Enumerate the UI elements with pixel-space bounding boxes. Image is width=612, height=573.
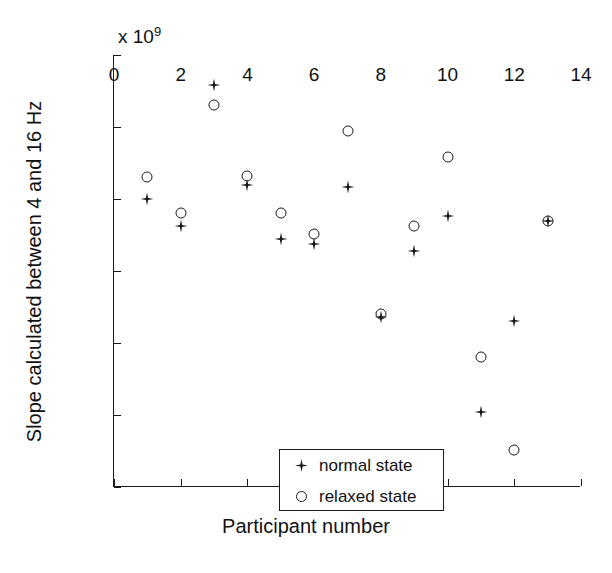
data-point-star bbox=[174, 220, 187, 233]
star-marker-icon bbox=[294, 459, 308, 473]
legend-label-relaxed-state: relaxed state bbox=[319, 488, 416, 505]
data-point-circle bbox=[275, 208, 286, 219]
y-axis-exponent-mantissa: x 10 bbox=[118, 26, 154, 47]
data-point-star bbox=[208, 79, 221, 92]
data-point-circle bbox=[442, 152, 453, 163]
legend-label-normal-state: normal state bbox=[319, 457, 413, 474]
data-point-circle bbox=[209, 100, 220, 111]
x-tick-label: 14 bbox=[551, 65, 611, 84]
data-point-star bbox=[474, 406, 487, 419]
x-tick-label: 2 bbox=[151, 65, 211, 84]
x-tick bbox=[247, 479, 248, 486]
data-point-star bbox=[308, 237, 321, 250]
x-tick-label: 12 bbox=[484, 65, 544, 84]
data-point-circle bbox=[309, 228, 320, 239]
data-point-circle bbox=[542, 215, 553, 226]
data-point-star bbox=[441, 210, 454, 223]
x-tick bbox=[448, 479, 449, 486]
data-point-circle bbox=[509, 444, 520, 455]
y-tick bbox=[114, 415, 121, 416]
x-tick-label: 10 bbox=[418, 65, 478, 84]
y-tick bbox=[114, 271, 121, 272]
x-tick bbox=[114, 479, 115, 486]
data-point-star bbox=[341, 181, 354, 194]
x-tick bbox=[581, 479, 582, 486]
data-point-circle bbox=[175, 208, 186, 219]
legend-box: normal state relaxed state bbox=[279, 449, 444, 511]
x-axis-title: Participant number bbox=[0, 515, 612, 538]
data-point-star bbox=[141, 193, 154, 206]
x-tick-label: 0 bbox=[84, 65, 144, 84]
x-tick-label: 8 bbox=[351, 65, 411, 84]
y-axis-exponent-power: 9 bbox=[154, 24, 161, 39]
data-point-star bbox=[408, 244, 421, 257]
y-tick bbox=[114, 487, 121, 488]
data-point-circle bbox=[142, 172, 153, 183]
data-point-circle bbox=[475, 352, 486, 363]
plot-area: 10.50−0.5−1−1.5−2 02468101214 normal sta… bbox=[113, 55, 580, 487]
data-point-star bbox=[274, 233, 287, 246]
x-tick-label: 6 bbox=[284, 65, 344, 84]
data-point-star bbox=[508, 315, 521, 328]
x-tick bbox=[514, 479, 515, 486]
scatter-plot-figure: x 109 10.50−0.5−1−1.5−2 02468101214 norm… bbox=[0, 0, 612, 573]
y-tick bbox=[114, 127, 121, 128]
legend-item-normal-state: normal state bbox=[280, 450, 443, 481]
legend-item-relaxed-state: relaxed state bbox=[280, 481, 443, 512]
data-point-circle bbox=[242, 170, 253, 181]
circle-marker-icon bbox=[294, 490, 308, 504]
data-point-circle bbox=[342, 126, 353, 137]
data-point-circle bbox=[375, 309, 386, 320]
y-axis-exponent-label: x 109 bbox=[118, 22, 161, 46]
y-tick bbox=[114, 55, 121, 56]
data-point-circle bbox=[409, 221, 420, 232]
x-tick-label: 4 bbox=[217, 65, 277, 84]
y-tick bbox=[114, 199, 121, 200]
y-tick bbox=[114, 343, 121, 344]
x-tick bbox=[181, 479, 182, 486]
y-axis-title: Slope calculated between 4 and 16 Hz bbox=[23, 62, 46, 482]
